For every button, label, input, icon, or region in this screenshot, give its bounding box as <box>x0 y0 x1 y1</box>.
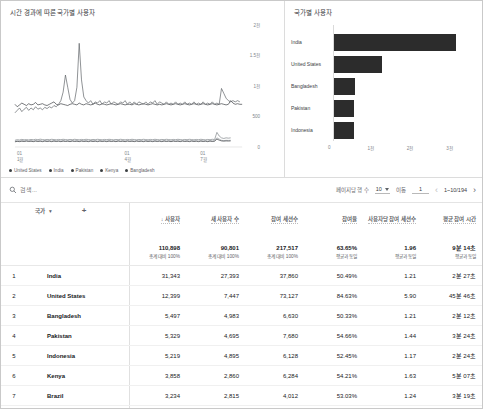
row-country: Bangladesh <box>27 306 129 326</box>
summary-sublabel: 평균과 동일 <box>424 253 483 260</box>
table-summary: 110,898 총계 대비 100% 90,801 총계 대비 100% 217… <box>1 239 483 266</box>
row-engagement-rate: 50.49% <box>306 266 365 286</box>
legend-color-dot <box>100 169 103 172</box>
summary-new-users: 90,801 총계 대비 100% <box>188 239 247 266</box>
legend-item[interactable]: Pakistan <box>71 168 94 173</box>
row-avg-engagement-time: 2분 24초 <box>424 346 483 366</box>
row-users: 5,497 <box>129 306 188 326</box>
row-avg-engagement-time: 3분 24초 <box>424 326 483 346</box>
legend-item[interactable]: Bangladesh <box>125 168 154 173</box>
legend-label: Bangladesh <box>130 168 154 173</box>
table-row[interactable]: 5Indonesia5,2194,8956,12852.45%1.172분 24… <box>1 346 483 366</box>
header-dimension-country[interactable]: 국가 ▾ + <box>27 203 129 239</box>
summary-engaged-sessions: 217,517 총계 대비 100% <box>247 239 306 266</box>
header-metric-engaged-sessions[interactable]: 참여 세션수 <box>247 203 306 239</box>
bar[interactable] <box>333 34 456 51</box>
bar[interactable] <box>333 122 354 139</box>
summary-dimension <box>27 239 129 266</box>
search-box[interactable] <box>9 186 140 194</box>
x-axis-tick-label: 01 <box>125 151 131 156</box>
prev-page-icon[interactable]: ‹ <box>435 186 438 195</box>
line-series <box>15 43 240 113</box>
row-engaged-sessions: 6,630 <box>247 306 306 326</box>
y-axis-tick-label: 2천 <box>254 22 261 28</box>
table-row[interactable]: 3Bangladesh5,4974,9836,63050.33%1.212분 1… <box>1 306 483 326</box>
row-index: 4 <box>1 326 27 346</box>
x-axis-tick-label: 7월 <box>200 156 207 163</box>
header-metric-sessions-per-user[interactable]: 사용자당 참여 세션수 <box>365 203 424 239</box>
table-row[interactable]: 4Pakistan5,3294,6957,68054.66%1.443분 24초 <box>1 326 483 346</box>
row-avg-engagement-time: 5분 07초 <box>424 366 483 386</box>
summary-value: 1.96 <box>365 244 424 253</box>
row-sessions-per-user: 5.90 <box>365 286 424 306</box>
summary-value: 63.65% <box>306 244 365 253</box>
country-metrics-table: 국가 ▾ + ↓ 사용자 새 사용자 수 참여 세션수 참여율 <box>1 203 483 409</box>
row-country: Kenya <box>27 366 129 386</box>
table-row[interactable]: 6Kenya3,8582,8606,28454.21%1.635분 07초 <box>1 366 483 386</box>
legend-color-dot <box>71 169 74 172</box>
bar-category-label: India <box>291 39 302 45</box>
table-row[interactable]: 2United States12,3997,44773,12784.63%5.9… <box>1 286 483 306</box>
row-users: 3,858 <box>129 366 188 386</box>
line-series <box>15 132 231 140</box>
summary-users: 110,898 총계 대비 100% <box>129 239 188 266</box>
row-engaged-sessions: 37,860 <box>247 266 306 286</box>
row-engaged-sessions: 4,012 <box>247 386 306 406</box>
row-index: 5 <box>1 346 27 366</box>
row-avg-engagement-time: 3분 19초 <box>424 386 483 406</box>
search-input[interactable] <box>20 187 140 193</box>
row-index: 7 <box>1 386 27 406</box>
bar[interactable] <box>333 78 355 95</box>
header-metric-avg-engagement-time[interactable]: 평균 참여 시간 <box>424 203 483 239</box>
legend-item[interactable]: India <box>49 168 64 173</box>
row-country: India <box>27 266 129 286</box>
row-users: 5,219 <box>129 346 188 366</box>
add-dimension-icon[interactable]: + <box>82 207 87 215</box>
users-over-time-card: 시간 경과에 따른 국가별 사용자 05001천1.5천2천011월014월01… <box>1 1 285 177</box>
legend-item[interactable]: Kenya <box>100 168 118 173</box>
row-index: 2 <box>1 286 27 306</box>
table-header-row: 국가 ▾ + ↓ 사용자 새 사용자 수 참여 세션수 참여율 <box>1 203 483 239</box>
row-new-users: 4,895 <box>188 346 247 366</box>
summary-sublabel: 총계 대비 100% <box>130 253 189 260</box>
chevron-down-icon[interactable]: ▾ <box>49 208 52 214</box>
table-row[interactable]: 7Brazil3,2342,8154,01253.03%1.243분 19초 <box>1 386 483 406</box>
summary-index <box>1 239 27 266</box>
bar[interactable] <box>333 56 382 73</box>
row-new-users: 27,393 <box>188 266 247 286</box>
row-users: 31,343 <box>129 266 188 286</box>
bar-category-label: United States <box>291 61 321 67</box>
row-sessions-per-user: 1.44 <box>365 326 424 346</box>
summary-value: 110,898 <box>130 244 189 253</box>
legend-label: Kenya <box>105 168 118 173</box>
header-label: 참여 세션수 <box>271 216 298 224</box>
row-avg-engagement-time: 45분 46초 <box>424 286 483 306</box>
page-range: 1~10/194 <box>444 187 467 193</box>
users-over-time-line-chart[interactable]: 05001천1.5천2천011월014월017월 <box>1 1 284 177</box>
table-row[interactable]: 1India31,34327,39337,86050.49%1.212분 27초 <box>1 266 483 286</box>
summary-sublabel: 총계 대비 100% <box>247 253 306 260</box>
next-page-icon[interactable]: › <box>473 186 476 195</box>
header-label: 사용자당 참여 세션수 <box>368 216 416 224</box>
summary-value: 217,517 <box>247 244 306 253</box>
summary-sublabel: 평균과 동일 <box>306 253 365 260</box>
row-sessions-per-user: 1.21 <box>365 306 424 326</box>
row-country: United States <box>27 286 129 306</box>
row-engaged-sessions: 6,284 <box>247 366 306 386</box>
rows-per-page-value: 10 <box>376 186 382 192</box>
header-metric-users[interactable]: ↓ 사용자 <box>129 203 188 239</box>
x-axis-tick-label: 01 <box>17 151 23 156</box>
row-new-users: 2,815 <box>188 386 247 406</box>
y-axis-tick-label: 500 <box>252 114 260 119</box>
row-engagement-rate: 54.66% <box>306 326 365 346</box>
header-metric-engagement-rate[interactable]: 참여율 <box>306 203 365 239</box>
row-sessions-per-user: 1.21 <box>365 266 424 286</box>
legend-label: Pakistan <box>76 168 94 173</box>
header-label: 새 사용자 수 <box>211 216 239 224</box>
header-metric-new-users[interactable]: 새 사용자 수 <box>188 203 247 239</box>
goto-page-input[interactable]: 1 <box>412 186 429 194</box>
users-by-country-bar-chart[interactable]: IndiaUnited StatesBangladeshPakistanIndo… <box>285 1 482 177</box>
rows-per-page-select[interactable]: 10 <box>375 186 390 194</box>
legend-item[interactable]: United States <box>9 168 42 173</box>
bar[interactable] <box>333 100 354 117</box>
